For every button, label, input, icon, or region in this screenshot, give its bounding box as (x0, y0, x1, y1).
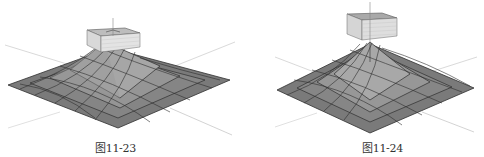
figure-caption: 图11-24 (362, 139, 403, 155)
figure-caption: 图11-23 (95, 139, 136, 155)
terrain-with-floating-box-illustration (242, 0, 484, 157)
figure-11-24: 图11-24 (242, 0, 484, 157)
figure-11-23: 图11-23 (0, 0, 242, 157)
terrain-with-box-illustration (0, 0, 242, 157)
